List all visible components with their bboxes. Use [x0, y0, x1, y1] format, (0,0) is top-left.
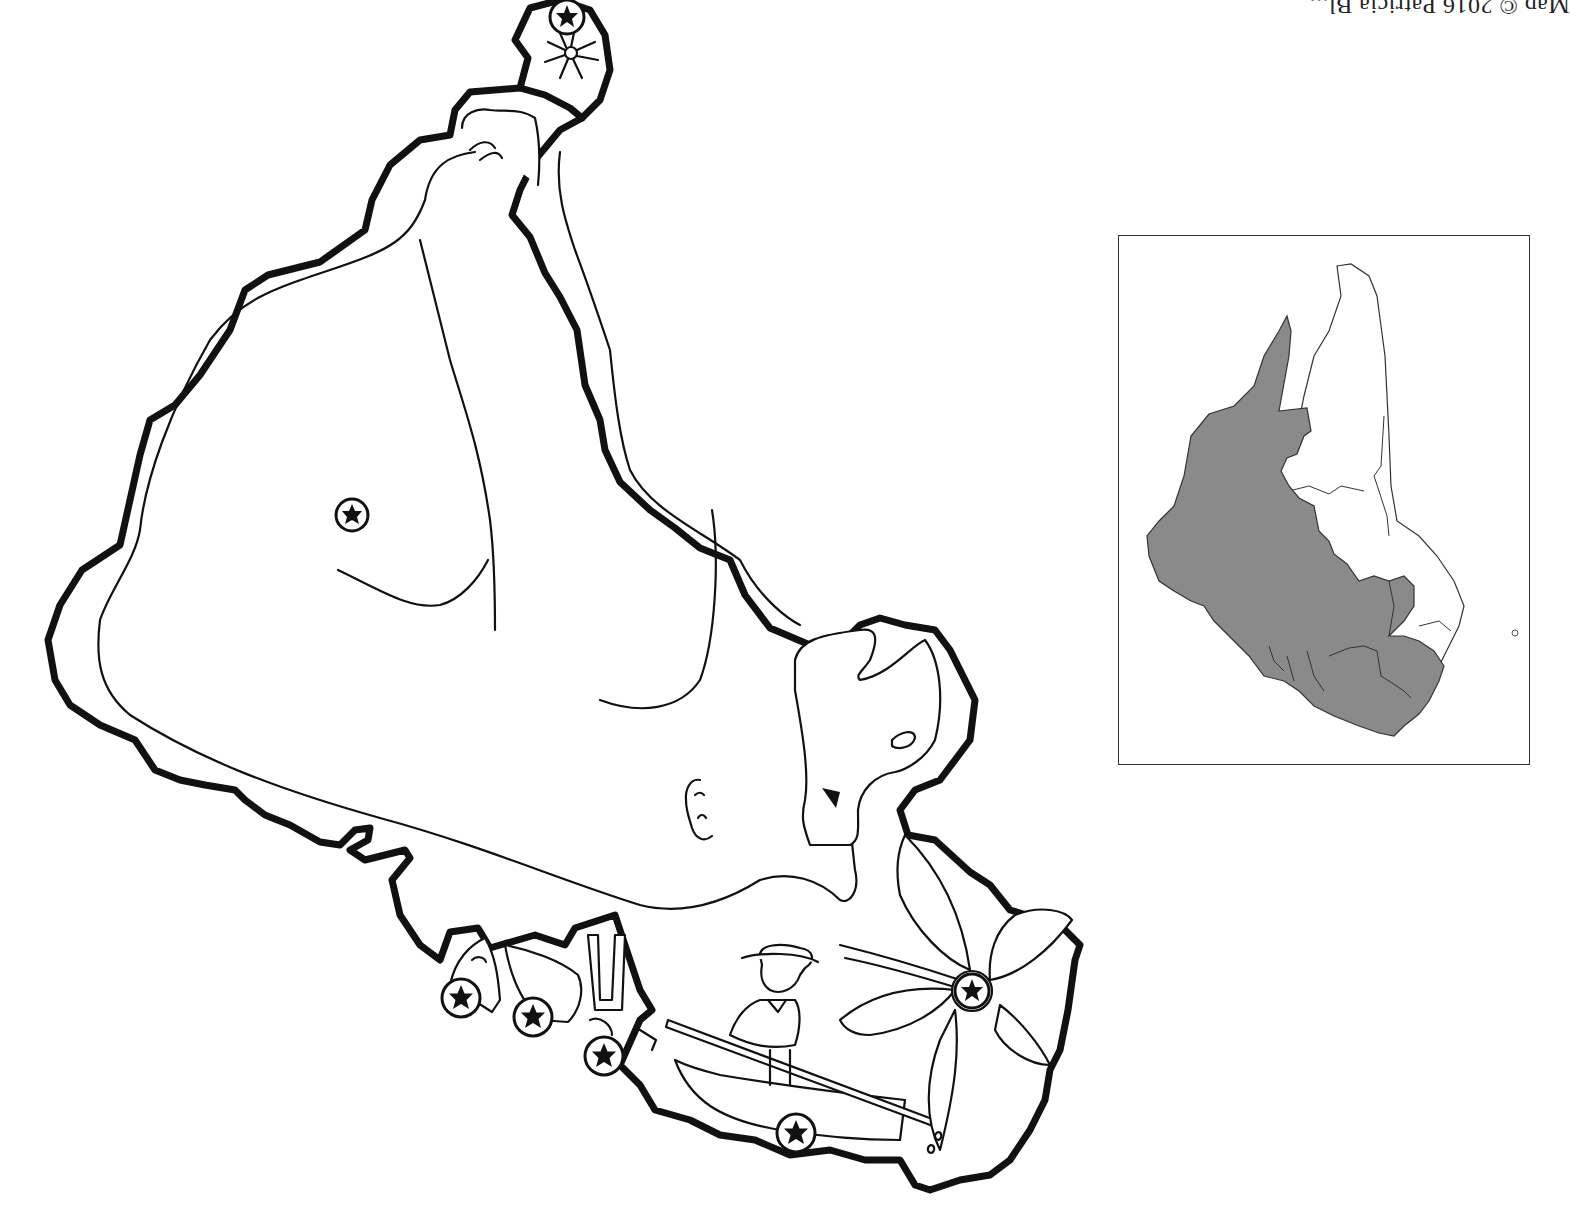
pillars-illustration	[588, 935, 656, 1050]
star-in-circle-icon[interactable]	[514, 998, 552, 1036]
interior-ridge-line	[420, 240, 495, 630]
fist-illustration	[462, 110, 539, 185]
sun-icon	[545, 28, 598, 78]
star-in-circle-icon[interactable]	[955, 974, 989, 1008]
star-in-circle-icon[interactable]	[550, 0, 584, 34]
peninsula-shape	[795, 630, 940, 845]
interior-curve-right	[600, 510, 716, 708]
star-in-circle-icon[interactable]	[585, 1037, 623, 1075]
copyright-credit: Map © 2016 Patricia Bl...	[1309, 0, 1570, 19]
inner-shoreline	[98, 152, 856, 909]
north-cap-border	[520, 88, 582, 118]
inset-locator-map	[1118, 235, 1530, 765]
interior-curve-line	[338, 560, 488, 606]
star-in-circle-icon[interactable]	[442, 979, 480, 1017]
star-in-circle-icon[interactable]	[777, 1114, 815, 1152]
fisherman-icon	[666, 945, 935, 1140]
star-in-circle-icon[interactable]	[336, 499, 368, 531]
inset-map-svg	[1119, 236, 1529, 764]
inset-island	[1512, 630, 1518, 636]
ear-figure	[686, 780, 712, 839]
